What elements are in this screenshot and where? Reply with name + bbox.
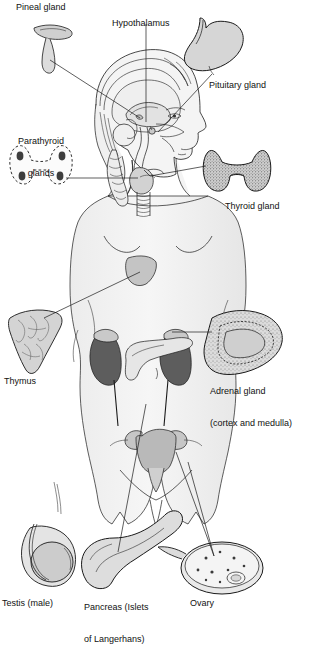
label-hypothalamus: Hypothalamus	[112, 18, 170, 29]
ovary-illustration	[158, 542, 263, 594]
label-testis: Testis (male)	[2, 598, 53, 609]
pituitary-gland-illustration	[184, 18, 243, 75]
label-parathyroid-glands: Parathyroid glands	[2, 115, 80, 189]
label-adrenal-gland: Adrenal gland (cortex and medulla)	[210, 365, 292, 439]
figure-caption-cropped: ...	[70, 614, 300, 619]
label-thymus: Thymus	[4, 376, 36, 387]
label-pancreas-line-1: Pancreas (Islets	[84, 602, 149, 613]
label-pineal-gland: Pineal gland	[16, 2, 66, 13]
label-pituitary-gland: Pituitary gland	[209, 80, 266, 91]
label-adrenal-line-1: Adrenal gland	[210, 386, 292, 397]
label-parathyroid-line-2: glands	[2, 168, 80, 179]
label-adrenal-line-2: (cortex and medulla)	[210, 418, 292, 429]
thyroid-gland-illustration	[203, 150, 271, 191]
thymus-illustration	[9, 310, 63, 373]
label-ovary: Ovary	[190, 598, 214, 609]
label-thyroid-gland: Thyroid gland	[225, 201, 280, 212]
testis-illustration	[21, 524, 75, 586]
label-parathyroid-line-1: Parathyroid	[2, 136, 80, 147]
label-pancreas-line-2: of Langerhans)	[84, 634, 149, 645]
pineal-gland-illustration	[34, 25, 72, 73]
